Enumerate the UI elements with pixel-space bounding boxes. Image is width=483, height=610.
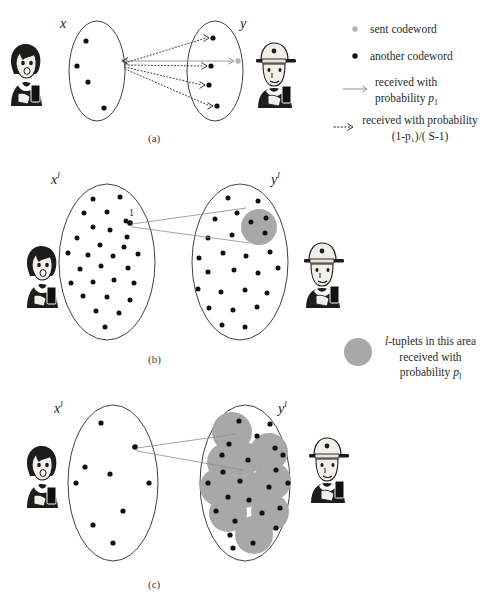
panel-c-output-label: yl	[278, 399, 287, 417]
panel-a-received-codeword-dot	[235, 58, 240, 63]
legend-black-dot-marker	[352, 53, 357, 58]
panel-c-receiver-icon	[303, 433, 351, 505]
panel-a-output-arrowheads	[200, 35, 214, 110]
legend-item-another-codeword-label: another codeword	[370, 49, 483, 65]
legend-item-p1-label: received with probability p1	[375, 75, 480, 109]
panel-b-output-label-superscript: l	[277, 170, 280, 180]
panel-a-input-label: x	[60, 16, 66, 33]
note-gray-blob-marker	[344, 338, 372, 366]
panel-a-sender-icon	[2, 38, 46, 108]
panel-b-output-ellipse	[192, 184, 288, 340]
panel-b-input-label-superscript: l	[57, 170, 60, 180]
panel-a-input-label-text: x	[60, 16, 66, 31]
panel-a-output-label-text: y	[240, 16, 246, 31]
panel-a-output-dots	[206, 35, 219, 108]
panel-b-sender-icon	[18, 240, 62, 310]
panel-b-graphics	[59, 184, 288, 340]
panel-c-output-label-superscript: l	[284, 399, 287, 409]
legend-item-alt-probability-label: received with probability (1-p₁)/( S-1)	[357, 113, 483, 144]
panel-a-input-ellipse	[69, 21, 125, 121]
panel-c-input-label-superscript: l	[60, 399, 63, 409]
panel-b-receiver-icon	[298, 238, 346, 310]
panel-c-sender-icon	[18, 440, 62, 510]
panel-c-input-dots	[73, 420, 151, 545]
panel-c-caption: (c)	[148, 578, 160, 591]
note-p-subscript: l	[459, 372, 461, 381]
panel-c-graphics	[68, 405, 291, 561]
legend-item-sent-codeword-label: sent codeword	[370, 22, 480, 38]
panel-a-receiver-icon	[250, 38, 298, 110]
panel-a-output-label: y	[240, 16, 246, 33]
panel-c-input-ellipse	[68, 405, 158, 561]
panel-a-graphics	[69, 21, 243, 121]
panel-b-output-label: yl	[271, 170, 280, 188]
panel-b-caption: (b)	[148, 353, 161, 366]
legend-gray-dot-marker	[352, 26, 357, 31]
panel-a-dotted-arrows	[122, 38, 210, 106]
panel-b-gray-region	[241, 209, 277, 245]
panel-a-caption: (a)	[148, 132, 160, 145]
legend-markers	[334, 26, 372, 366]
panel-b-input-ellipse	[59, 184, 155, 340]
panel-c-gray-regions	[200, 412, 291, 554]
legend-alt-probability-formula: (1-p₁)/( S-1)	[392, 130, 449, 142]
legend-p-subscript: 1	[434, 98, 438, 107]
panel-b-input-label: xl	[51, 170, 60, 188]
panel-c-input-label: xl	[54, 399, 63, 417]
figure-root: x y (a) xl yl 1 (b) xl yl (c) sent codew…	[0, 0, 483, 610]
panel-a-input-dots	[74, 38, 106, 110]
panel-b-selected-point-label: 1	[129, 207, 134, 219]
gray-region-note: l-tuplets in this area received with pro…	[378, 334, 483, 383]
